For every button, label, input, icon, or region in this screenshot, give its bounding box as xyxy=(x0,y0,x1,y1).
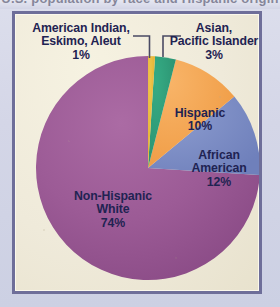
clipped-title-strip: U.S. population by race and Hispanic ori… xyxy=(0,0,280,9)
label-percent: 3% xyxy=(155,49,262,62)
label-line-2: Pacific Islander xyxy=(170,34,259,48)
chart-frame: American Indian, Eskimo, Aleut 1% Asian,… xyxy=(12,11,262,294)
label-line-1: African xyxy=(198,148,240,162)
label-percent: 1% xyxy=(17,49,145,62)
slice-label-non-hispanic-white: Non-Hispanic White 74% xyxy=(45,190,181,230)
label-line-1: Asian, xyxy=(196,21,232,35)
label-line-1: Non-Hispanic xyxy=(74,189,152,203)
slice-label-american-indian: American Indian, Eskimo, Aleut 1% xyxy=(17,22,145,62)
slice-label-african-american: African American 12% xyxy=(173,149,262,189)
label-line-1: Hispanic xyxy=(175,106,225,120)
label-percent: 74% xyxy=(45,217,181,230)
label-line-2: White xyxy=(97,202,130,216)
label-line-2: Eskimo, Aleut xyxy=(41,34,121,48)
pie-chart: American Indian, Eskimo, Aleut 1% Asian,… xyxy=(15,14,259,291)
label-line-1: American Indian, xyxy=(32,21,129,35)
slice-label-asian-pacific-islander: Asian, Pacific Islander 3% xyxy=(155,22,262,62)
clipped-title-text: U.S. population by race and Hispanic ori… xyxy=(0,0,280,6)
label-line-2: American xyxy=(191,161,246,175)
label-percent: 10% xyxy=(159,120,241,133)
label-percent: 12% xyxy=(173,176,262,189)
slice-label-hispanic: Hispanic 10% xyxy=(159,107,241,134)
